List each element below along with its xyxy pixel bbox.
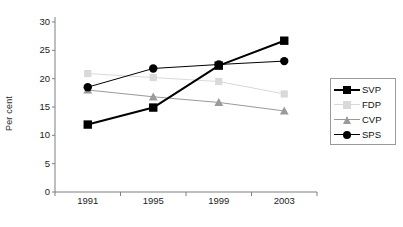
series-svp [84,37,289,129]
data-point [149,64,157,72]
legend-label: FDP [360,100,381,110]
data-point [84,70,91,77]
data-point [84,120,92,128]
legend-key-icon [334,113,360,127]
data-point [280,37,288,45]
data-point [150,74,157,81]
legend-item-cvp[interactable]: CVP [331,112,395,127]
series-cvp [83,86,288,115]
data-point [215,78,222,85]
legend-label: SVP [360,85,381,95]
data-point [215,61,223,69]
legend-key-icon [334,83,360,97]
data-point [281,90,288,97]
series-layer [83,37,288,129]
data-point [149,103,157,111]
legend-item-fdp[interactable]: FDP [331,97,395,112]
chart-legend: SVPFDPCVPSPS [330,78,396,145]
legend-label: CVP [360,115,382,125]
line-chart: Per cent 302520151050 1991199519992003 S… [0,0,403,227]
legend-item-svp[interactable]: SVP [331,82,395,97]
legend-key-icon [334,98,360,112]
legend-item-sps[interactable]: SPS [331,127,395,142]
data-point [84,83,92,91]
series-fdp [84,70,288,98]
legend-label: SPS [360,130,381,140]
data-point [280,57,288,65]
legend-key-icon [334,128,360,142]
